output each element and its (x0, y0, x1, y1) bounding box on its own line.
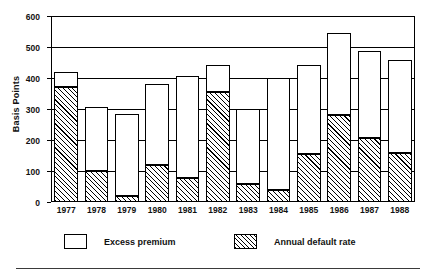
bar-segment-excess-premium (176, 76, 200, 178)
x-axis-tick-label: 1981 (172, 205, 202, 215)
bar-segment-excess-premium (267, 78, 291, 190)
y-axis-tick-label: 100 (26, 167, 40, 177)
bar-segment-annual-default-rate (115, 196, 139, 202)
bar-group (206, 65, 230, 202)
bar-group (115, 114, 139, 202)
bar-segment-annual-default-rate (54, 87, 78, 202)
bar-segment-annual-default-rate (85, 171, 109, 202)
x-axis-tick-label: 1978 (81, 205, 111, 215)
y-axis-tick: 300 (47, 109, 51, 110)
bar-segment-excess-premium (54, 72, 78, 88)
plot-area: 0100200300400500600 (51, 16, 415, 202)
bar-segment-annual-default-rate (327, 115, 351, 202)
legend-swatch-open-box-icon (64, 234, 87, 249)
bar-segment-annual-default-rate (358, 138, 382, 202)
x-axis-tick-label: 1979 (112, 205, 142, 215)
bar-group (358, 51, 382, 202)
y-axis-tick-label: 500 (26, 43, 40, 53)
bar-group (85, 107, 109, 202)
bar-segment-annual-default-rate (145, 165, 169, 202)
y-axis-tick-label: 600 (26, 12, 40, 22)
x-axis-tick-labels: 1977197819791980198119821983198419851986… (51, 205, 415, 219)
legend-item-excess-premium: Excess premium (64, 234, 176, 249)
bar-group (297, 65, 321, 202)
bar-group (327, 33, 351, 202)
bar-segment-excess-premium (236, 109, 260, 184)
x-axis-tick-label: 1977 (51, 205, 81, 215)
bar-segment-annual-default-rate (206, 92, 230, 202)
y-axis-tick-label: 0 (35, 198, 40, 208)
bar-segment-excess-premium (327, 33, 351, 115)
bar-segment-annual-default-rate (388, 153, 412, 202)
x-axis-tick-label: 1984 (263, 205, 293, 215)
bar-group (236, 109, 260, 202)
chart-legend: Excess premium Annual default rate (0, 234, 436, 258)
y-axis-tick-label: 200 (26, 136, 40, 146)
bar-segment-excess-premium (388, 60, 412, 153)
bar-segment-excess-premium (206, 65, 230, 92)
bar-group (176, 76, 200, 202)
y-axis-tick: 0 (47, 202, 51, 203)
legend-item-annual-default-rate: Annual default rate (234, 234, 356, 249)
x-axis-tick-label: 1983 (233, 205, 263, 215)
legend-label-annual-default-rate: Annual default rate (274, 237, 356, 247)
legend-label-excess-premium: Excess premium (104, 237, 176, 247)
legend-swatch-hatched-box-icon (234, 234, 257, 249)
bar-segment-excess-premium (85, 107, 109, 171)
y-axis-tick: 500 (47, 47, 51, 48)
x-axis-tick-label: 1980 (142, 205, 172, 215)
bar-segment-annual-default-rate (267, 190, 291, 202)
bar-segment-annual-default-rate (176, 178, 200, 202)
x-axis-tick-label: 1988 (385, 205, 415, 215)
bar-group (267, 78, 291, 202)
y-axis-tick-label: 300 (26, 105, 40, 115)
y-axis-tick: 400 (47, 78, 51, 79)
y-axis-tick: 100 (47, 171, 51, 172)
chart-figure: Basis Points 0100200300400500600 1977197… (0, 0, 436, 280)
footer-divider (16, 268, 420, 269)
y-axis-tick: 200 (47, 140, 51, 141)
bar-segment-excess-premium (358, 51, 382, 137)
gridline (51, 47, 415, 48)
x-axis-tick-label: 1987 (354, 205, 384, 215)
y-axis-tick: 600 (47, 16, 51, 17)
bar-segment-excess-premium (145, 84, 169, 165)
bar-segment-annual-default-rate (297, 154, 321, 202)
bar-segment-excess-premium (115, 114, 139, 196)
y-axis-title: Basis Points (11, 54, 21, 154)
y-axis-tick-label: 400 (26, 74, 40, 84)
bar-group (145, 84, 169, 202)
bar-group (388, 60, 412, 202)
x-axis-tick-label: 1986 (324, 205, 354, 215)
bar-group (54, 72, 78, 202)
x-axis-tick-label: 1982 (203, 205, 233, 215)
bar-segment-excess-premium (297, 65, 321, 154)
x-axis-tick-label: 1985 (294, 205, 324, 215)
bar-segment-annual-default-rate (236, 184, 260, 202)
